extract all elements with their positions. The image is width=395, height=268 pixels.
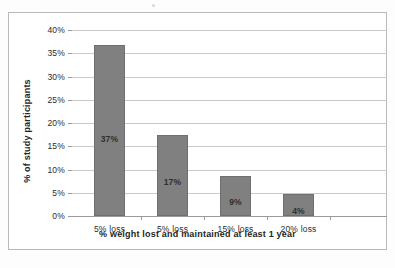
y-axis-title: % of study participants <box>22 79 32 183</box>
bar-value-label: 9% <box>229 197 242 207</box>
y-axis-tick <box>68 216 72 217</box>
bar <box>157 135 188 216</box>
y-axis-tick <box>68 53 72 54</box>
y-axis-tick-label: 30% <box>47 72 65 82</box>
y-axis-tick-label: 10% <box>47 165 65 175</box>
bar-value-label: 4% <box>292 206 305 216</box>
y-axis-tick-label: 5% <box>52 188 65 198</box>
y-axis-tick-label: 25% <box>47 95 65 105</box>
x-axis-tick <box>267 216 268 220</box>
y-axis-tick <box>68 146 72 147</box>
y-axis-tick-label: 20% <box>47 118 65 128</box>
plot-area: 0%5%10%15%20%25%30%35%40% 37%17%9%4% 5% … <box>72 30 387 216</box>
bar <box>94 45 125 216</box>
y-axis-tick <box>68 30 72 31</box>
x-axis-tick-label: 20% loss <box>280 224 316 234</box>
bar-value-label: 17% <box>164 177 182 187</box>
x-axis-title: % weight lost and maintained at least 1 … <box>9 229 386 239</box>
y-axis-tick <box>68 77 72 78</box>
x-axis-tick-label: 15% loss <box>217 224 253 234</box>
gridline <box>72 30 387 31</box>
scanned-page: % of study participants % weight lost an… <box>0 0 395 268</box>
y-axis-tick <box>68 123 72 124</box>
y-axis-tick <box>68 193 72 194</box>
x-axis-tick <box>141 216 142 220</box>
x-axis-tick <box>330 216 331 220</box>
y-axis-tick-label: 0% <box>52 211 65 221</box>
chart-frame: % of study participants % weight lost an… <box>8 12 387 250</box>
y-axis-tick-label: 15% <box>47 141 65 151</box>
x-axis-tick-label: 5% loss <box>157 224 188 234</box>
x-axis-tick-label: 5% loss <box>94 224 125 234</box>
y-axis-tick-label: 35% <box>47 48 65 58</box>
y-axis-tick <box>68 170 72 171</box>
scan-artifact-speck <box>152 4 155 7</box>
gridline <box>72 216 387 217</box>
bar-value-label: 37% <box>101 134 119 144</box>
x-axis-tick <box>204 216 205 220</box>
y-axis-tick-label: 40% <box>47 25 65 35</box>
y-axis-tick <box>68 100 72 101</box>
